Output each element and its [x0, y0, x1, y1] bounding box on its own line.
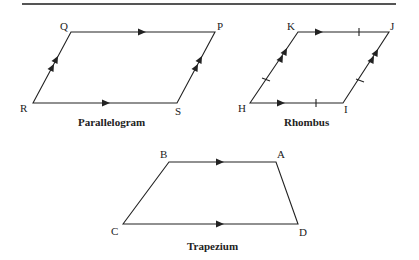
quadrilaterals-diagram: Q P R S Parallelogram K J H I Rhombus [0, 0, 419, 260]
vertex-label-k: K [287, 20, 295, 32]
vertex-label-r: R [20, 102, 28, 114]
vertex-label-p: P [217, 20, 223, 32]
double-arrow-icon [48, 56, 59, 72]
vertex-label-s: S [175, 105, 181, 117]
parallel-arrow-icon [216, 221, 224, 228]
vertex-label-c: C [111, 225, 118, 237]
parallelogram-shape [33, 32, 215, 103]
vertex-label-a: A [277, 148, 285, 160]
vertex-label-i: I [344, 103, 348, 115]
parallel-arrow-icon [138, 29, 146, 36]
parallel-arrow-icon [277, 100, 285, 107]
trapezium-shape [123, 162, 298, 224]
parallel-arrow-icon [315, 29, 323, 36]
parallel-arrow-icon [102, 100, 110, 107]
caption-rhombus: Rhombus [284, 116, 330, 128]
parallelogram: Q P R S Parallelogram [20, 20, 223, 128]
vertex-label-q: Q [60, 20, 68, 32]
vertex-label-h: H [238, 102, 246, 114]
caption-trapezium: Trapezium [187, 240, 238, 252]
double-arrow-icon [192, 56, 203, 72]
rhombus-shape [250, 32, 389, 103]
rhombus: K J H I Rhombus [238, 20, 395, 128]
vertex-label-b: B [160, 148, 167, 160]
vertex-label-j: J [390, 20, 395, 32]
caption-parallelogram: Parallelogram [78, 116, 145, 128]
trapezium: B A C D Trapezium [111, 148, 307, 252]
vertex-label-d: D [299, 226, 307, 238]
parallel-arrow-icon [216, 159, 224, 166]
